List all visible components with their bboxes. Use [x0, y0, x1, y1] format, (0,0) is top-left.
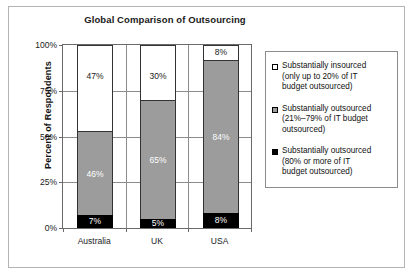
- x-axis-label-uk: UK: [151, 236, 163, 246]
- legend-outsourced-mid-line3: outsourced): [282, 125, 371, 136]
- legend-outsourced-mid-line2: (21%–79% of IT budget: [282, 114, 371, 125]
- legend-label-outsourced-high: Substantially outsourced (80% or more of…: [282, 146, 371, 178]
- segment-usa-outsourced-mid[interactable]: 84%: [203, 60, 239, 214]
- legend-insourced-line1: Substantially insourced: [282, 61, 366, 72]
- segment-label-australia-insourced: 47%: [86, 72, 103, 81]
- y-tick-label-100: 100%: [35, 40, 57, 50]
- segment-uk-insourced[interactable]: 30%: [140, 45, 176, 100]
- y-tick-label-75: 75%: [40, 86, 57, 96]
- y-tick-mark-50: [59, 137, 63, 138]
- y-axis-title: Percent of Respondents: [43, 35, 53, 195]
- segment-label-usa-insourced: 8%: [215, 48, 227, 57]
- legend-outsourced-mid-line1: Substantially outsourced: [282, 104, 371, 115]
- segment-australia-outsourced-high[interactable]: 7%: [77, 215, 113, 228]
- segment-label-australia-outsourced-high: 7%: [89, 217, 101, 226]
- segment-label-usa-outsourced-high: 8%: [215, 216, 227, 225]
- x-tick-mark-1: [126, 228, 127, 232]
- legend-insourced-line2: (only up to 20% of IT: [282, 72, 366, 83]
- y-tick-mark-100: [59, 45, 63, 46]
- segment-label-uk-outsourced-high: 5%: [152, 219, 164, 228]
- legend-outsourced-high-line1: Substantially outsourced: [282, 146, 371, 157]
- segment-label-uk-outsourced-mid: 65%: [149, 156, 166, 165]
- chart-legend: Substantially insourced (only up to 20% …: [265, 51, 398, 188]
- bar-australia[interactable]: 47% 46% 7%: [77, 45, 113, 228]
- segment-usa-insourced[interactable]: 8%: [203, 45, 239, 60]
- x-axis-label-usa: USA: [211, 236, 228, 246]
- white-square-icon: [272, 64, 278, 70]
- segment-label-usa-outsourced-mid: 84%: [212, 133, 229, 142]
- legend-outsourced-high-line2: (80% or more of IT: [282, 157, 371, 168]
- y-tick-label-0: 0%: [45, 223, 57, 233]
- x-tick-mark-3: [251, 228, 252, 232]
- x-tick-mark-0: [63, 228, 64, 232]
- segment-australia-insourced[interactable]: 47%: [77, 45, 113, 131]
- segment-usa-outsourced-high[interactable]: 8%: [203, 213, 239, 228]
- y-tick-mark-75: [59, 91, 63, 92]
- segment-uk-outsourced-high[interactable]: 5%: [140, 219, 176, 228]
- x-axis-label-australia: Australia: [78, 236, 111, 246]
- x-tick-mark-2: [188, 228, 189, 232]
- bar-usa[interactable]: 8% 84% 8%: [203, 45, 239, 228]
- chart-figure: Global Comparison of Outsourcing Percent…: [0, 0, 413, 276]
- bar-uk[interactable]: 30% 65% 5%: [140, 45, 176, 228]
- legend-outsourced-high-line3: budget outsourced): [282, 167, 371, 178]
- chart-title: Global Comparison of Outsourcing: [40, 14, 290, 25]
- gray-square-icon: [272, 107, 278, 113]
- legend-label-insourced: Substantially insourced (only up to 20% …: [282, 61, 366, 93]
- legend-insourced-line3: budget outsourced): [282, 82, 366, 93]
- black-square-icon: [272, 149, 278, 155]
- legend-item-insourced[interactable]: Substantially insourced (only up to 20% …: [272, 61, 390, 93]
- y-tick-label-50: 50%: [40, 132, 57, 142]
- category-separator-1: [126, 45, 127, 228]
- y-tick-label-25: 25%: [40, 177, 57, 187]
- y-tick-mark-25: [59, 182, 63, 183]
- legend-item-outsourced-high[interactable]: Substantially outsourced (80% or more of…: [272, 146, 390, 178]
- segment-label-australia-outsourced-mid: 46%: [86, 169, 103, 178]
- legend-item-outsourced-mid[interactable]: Substantially outsourced (21%–79% of IT …: [272, 104, 390, 136]
- category-separator-2: [188, 45, 189, 228]
- segment-uk-outsourced-mid[interactable]: 65%: [140, 100, 176, 219]
- segment-australia-outsourced-mid[interactable]: 46%: [77, 131, 113, 215]
- plot-area: 100% 75% 50% 25% 0% 47% 46% 7% 30%: [62, 44, 252, 229]
- segment-label-uk-insourced: 30%: [149, 72, 166, 81]
- legend-label-outsourced-mid: Substantially outsourced (21%–79% of IT …: [282, 104, 371, 136]
